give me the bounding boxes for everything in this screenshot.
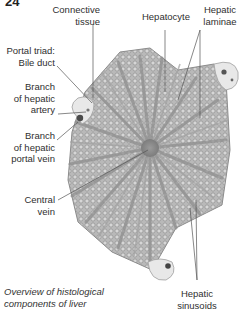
label-hepatocyte: Hepatocyte [136,11,196,23]
label-line: tissue [42,16,100,28]
label-hepatic-sinusoids: Hepatic sinusoids [172,288,222,311]
label-line: Bile duct [0,57,55,69]
label-line: of hepatic [0,142,55,154]
label-line: laminae [200,16,240,28]
label-line: Connective [42,4,100,16]
label-line: Portal triad: [0,45,55,57]
label-line: artery [0,104,55,116]
label-line: sinusoids [172,300,222,312]
label-line: Branch [0,81,55,93]
caption-line: Overview of histological [4,286,104,298]
label-connective-tissue: Connective tissue [42,4,100,27]
label-line: Hepatic [200,4,240,16]
label-portal-triad-bile-duct: Portal triad: Bile duct [0,45,55,68]
label-central-vein: Central vein [0,194,55,217]
central-vein [141,139,159,157]
label-line: Branch [0,130,55,142]
label-line: portal vein [0,153,55,165]
portal-triad-bottom [148,259,174,280]
caption-line: components of liver [4,298,104,310]
label-line: vein [0,206,55,218]
label-line: of hepatic [0,93,55,105]
label-branch-hepatic-portal-vein: Branch of hepatic portal vein [0,130,55,165]
label-hepatic-laminae: Hepatic laminae [200,4,240,27]
label-branch-hepatic-artery: Branch of hepatic artery [0,81,55,116]
label-line: Hepatic [172,288,222,300]
label-line: Central [0,194,55,206]
figure-caption: Overview of histological components of l… [4,286,104,310]
